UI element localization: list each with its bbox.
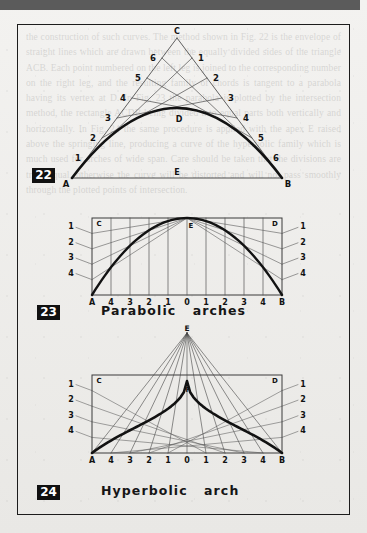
ray-right-side-4 — [111, 437, 282, 453]
ray-to-base-3 — [187, 333, 244, 453]
side-label-left-4: 4 — [68, 426, 74, 435]
side-label-right-4: 4 — [300, 269, 306, 278]
label-right-6: 6 — [273, 153, 279, 163]
baseline-label-6: 1 — [203, 456, 209, 465]
ray-right-ext-2 — [282, 243, 298, 249]
ray-left-side-2 — [92, 406, 225, 453]
label-apex-C: C — [174, 27, 180, 36]
label-A: A — [63, 179, 70, 189]
ray-left-2 — [92, 218, 187, 249]
baseline-label-3: 2 — [146, 456, 152, 465]
baseline-label-8: 3 — [241, 456, 247, 465]
baseline-label-10: B — [279, 298, 285, 307]
figure-22-drawing: 123456123456CABED — [17, 24, 350, 204]
baseline-label-0: A — [89, 456, 96, 465]
ray-left-ext-3 — [76, 416, 92, 422]
figure-23-badge: 23 — [37, 305, 60, 320]
label-left-3: 3 — [105, 113, 111, 123]
label-apex-E: E — [184, 324, 189, 333]
ray-to-base-2 — [187, 333, 225, 453]
ray-left-ext-1 — [76, 227, 92, 233]
label-vertex-D: D — [176, 115, 183, 124]
figure-22: 123456123456CABED — [17, 24, 350, 204]
label-E: E — [174, 168, 179, 177]
label-C: C — [96, 377, 101, 385]
label-right-4: 4 — [243, 113, 249, 123]
side-label-right-1: 1 — [300, 222, 306, 231]
baseline-label-9: 4 — [260, 298, 266, 307]
side-label-left-1: 1 — [68, 222, 74, 231]
side-label-left-3: 3 — [68, 411, 74, 420]
label-right-2: 2 — [213, 73, 219, 83]
baseline-label-4: 1 — [165, 456, 171, 465]
side-label-left-2: 2 — [68, 395, 74, 404]
baseline-label-2: 3 — [127, 456, 133, 465]
baseline-label-7: 2 — [222, 456, 228, 465]
ray-right-ext-2 — [282, 400, 298, 406]
figure-23-drawing: CDE12341234A432101234B — [17, 200, 350, 320]
side-label-left-2: 2 — [68, 238, 74, 247]
label-left-2: 2 — [90, 133, 96, 143]
baseline-label-9: 4 — [260, 456, 266, 465]
figure-24: EFCD12341234A432101234B — [17, 325, 350, 485]
label-right-5: 5 — [258, 133, 264, 143]
top-header-bar — [0, 0, 360, 10]
side-label-right-4: 4 — [300, 426, 306, 435]
figure-24-badge: 24 — [37, 485, 60, 500]
side-label-left-4: 4 — [68, 269, 74, 278]
ray-left-side-4 — [92, 437, 263, 453]
label-right-3: 3 — [228, 93, 234, 103]
ray-left-ext-2 — [76, 400, 92, 406]
figure-23: CDE12341234A432101234B — [17, 200, 350, 320]
ray-right-ext-3 — [282, 416, 298, 422]
label-left-4: 4 — [120, 93, 126, 103]
ray-to-base--2 — [149, 333, 187, 453]
side-label-right-2: 2 — [300, 395, 306, 404]
ray-right-ext-4 — [282, 274, 298, 280]
side-label-left-3: 3 — [68, 253, 74, 262]
ray-left-ext-1 — [76, 385, 92, 391]
label-left-1: 1 — [75, 153, 81, 163]
ray-right-ext-1 — [282, 227, 298, 233]
ray-left-3 — [92, 218, 187, 264]
baseline-label-0: A — [89, 298, 96, 307]
figure-23-caption: Parabolic arches — [101, 303, 246, 318]
ray-left-ext-3 — [76, 258, 92, 264]
ray-right-ext-4 — [282, 431, 298, 437]
label-left-5: 5 — [135, 73, 141, 83]
figure-24-drawing: EFCD12341234A432101234B — [17, 325, 350, 485]
label-D: D — [272, 220, 278, 228]
baseline-label-5: 0 — [184, 456, 190, 465]
figure-22-badge: 22 — [32, 168, 55, 183]
label-D: D — [272, 377, 278, 385]
figure-24-caption: Hyperbolic arch — [101, 483, 239, 498]
ray-left-ext-4 — [76, 274, 92, 280]
side-label-left-1: 1 — [68, 380, 74, 389]
label-vertex-F: F — [186, 386, 191, 394]
label-right-1: 1 — [198, 53, 204, 63]
label-C: C — [96, 220, 101, 228]
ray-right-ext-1 — [282, 385, 298, 391]
label-left-6: 6 — [150, 53, 156, 63]
side-label-right-2: 2 — [300, 238, 306, 247]
side-label-right-3: 3 — [300, 411, 306, 420]
ray-right-3 — [187, 218, 282, 264]
ray-right-2 — [187, 218, 282, 249]
baseline-label-1: 4 — [108, 456, 114, 465]
ray-left-4 — [92, 218, 187, 280]
side-label-right-1: 1 — [300, 380, 306, 389]
label-B: B — [285, 179, 291, 189]
ray-right-side-2 — [149, 406, 282, 453]
label-E: E — [189, 222, 194, 230]
baseline-label-10: B — [279, 456, 285, 465]
side-label-right-3: 3 — [300, 253, 306, 262]
ray-right-4 — [187, 218, 282, 280]
ray-right-ext-3 — [282, 258, 298, 264]
ray-left-ext-4 — [76, 431, 92, 437]
ray-to-base--3 — [130, 333, 187, 453]
ray-left-ext-2 — [76, 243, 92, 249]
